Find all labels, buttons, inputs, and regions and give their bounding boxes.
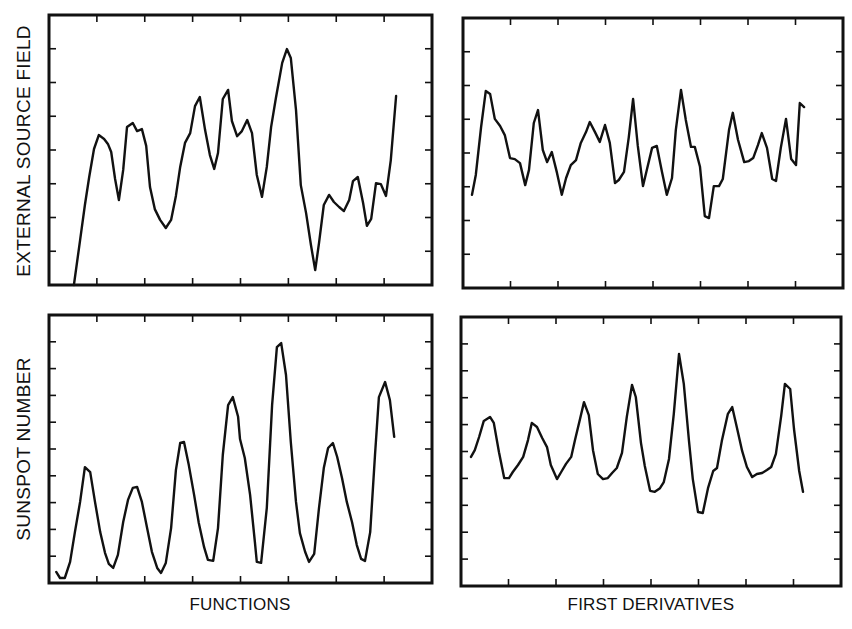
- plot-frame: [461, 317, 841, 586]
- plot-frame: [49, 15, 432, 285]
- panel-sunspot-first-derivatives: [461, 317, 841, 586]
- panel-sunspot-functions: [49, 315, 432, 583]
- panel-external-source-functions: [49, 15, 432, 285]
- ylabel-sunspot-number: SUNSPOT NUMBER: [13, 357, 35, 540]
- plot-frame: [463, 18, 843, 288]
- data-line: [472, 90, 804, 218]
- xlabel-first-derivatives: FIRST DERIVATIVES: [568, 595, 735, 615]
- xlabel-functions: FUNCTIONS: [190, 595, 291, 615]
- ylabel-external-source-field: EXTERNAL SOURCE FIELD: [13, 25, 35, 277]
- data-line: [74, 49, 396, 285]
- data-line: [56, 343, 394, 578]
- data-line: [471, 354, 803, 513]
- panel-external-source-first-derivatives: [463, 18, 843, 288]
